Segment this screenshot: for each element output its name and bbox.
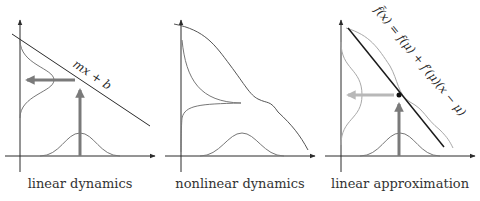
output-skewed-distribution [181, 40, 241, 152]
caption-nonlinear-dynamics: nonlinear dynamics [160, 176, 320, 191]
linearization-point [397, 93, 402, 98]
tangent-line [348, 28, 444, 147]
caption-linear-dynamics: linear dynamics [0, 176, 160, 191]
input-gaussian [200, 133, 284, 156]
caption-linear-approximation: linear approximation [320, 176, 480, 191]
nonlinear-function-curve [174, 24, 308, 150]
panel-linear-approximation: f̃(x) = f(μ) + f′(μ)(x − μ) [325, 2, 475, 172]
panel-nonlinear-dynamics [165, 20, 315, 172]
panel-linear-dynamics: mx + b [5, 20, 155, 172]
figure-canvas: mx + b f̃(x) = f(μ) + f′(μ)(x − μ) [0, 0, 480, 201]
